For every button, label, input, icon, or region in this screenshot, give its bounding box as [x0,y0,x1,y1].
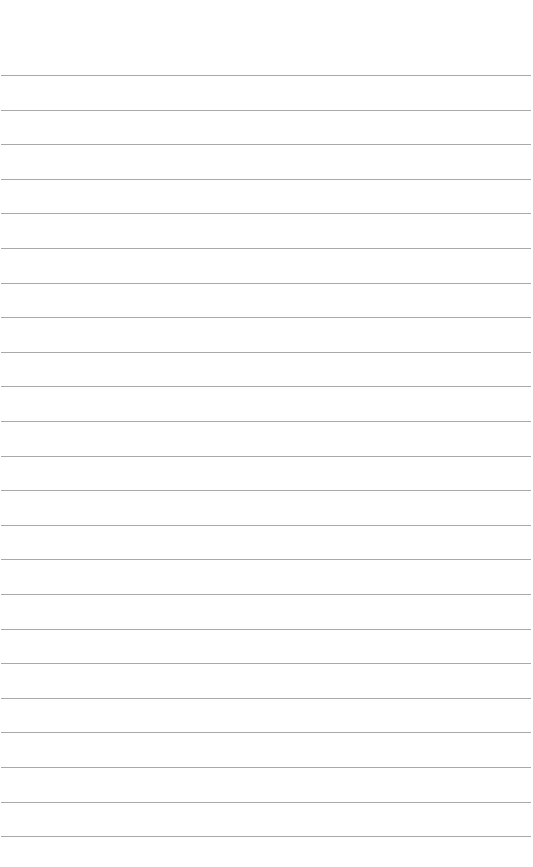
ruled-line [1,732,531,733]
ruled-line [1,110,531,111]
ruled-line [1,213,531,214]
ruled-line [1,317,531,318]
ruled-line [1,456,531,457]
ruled-line [1,802,531,803]
ruled-line [1,629,531,630]
ruled-line [1,386,531,387]
ruled-line [1,179,531,180]
ruled-line [1,767,531,768]
ruled-line [1,75,531,76]
ruled-line [1,698,531,699]
ruled-line [1,283,531,284]
ruled-line [1,144,531,145]
ruled-line [1,663,531,664]
ruled-line [1,559,531,560]
ruled-line [1,421,531,422]
ruled-line [1,836,531,837]
lined-paper [0,0,533,867]
ruled-line [1,525,531,526]
ruled-line [1,352,531,353]
ruled-line [1,490,531,491]
ruled-line [1,248,531,249]
ruled-line [1,594,531,595]
